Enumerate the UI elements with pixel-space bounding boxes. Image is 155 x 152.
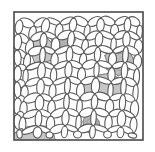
- strut: [39, 47, 46, 63]
- strut: [89, 126, 96, 139]
- strut: [96, 18, 105, 32]
- strut: [61, 126, 68, 138]
- strut: [122, 47, 129, 64]
- strut: [93, 62, 99, 77]
- strut: [103, 130, 112, 138]
- strut: [90, 110, 96, 125]
- micrograph-figure: cellular foam microstructure with shaded…: [0, 0, 155, 152]
- strut: [120, 78, 126, 95]
- strut: [46, 131, 54, 138]
- strut: [117, 127, 125, 138]
- strut: [16, 129, 22, 138]
- strut: [35, 95, 45, 111]
- strut: [73, 130, 82, 138]
- strut: [91, 94, 98, 109]
- micrograph-canvas: [0, 0, 155, 152]
- strut: [33, 127, 43, 139]
- strut: [64, 78, 71, 95]
